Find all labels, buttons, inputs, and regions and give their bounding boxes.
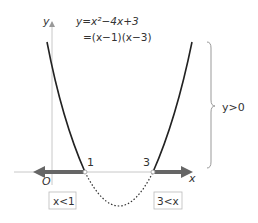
y-axis-label: y: [42, 15, 50, 28]
right-solution-arrow: [154, 166, 193, 178]
brace-label: y>0: [222, 101, 245, 114]
equation-line-1: y=x²−4x+3: [75, 15, 139, 27]
root-3-label: 3: [143, 156, 150, 169]
root-1-label: 1: [87, 156, 94, 169]
parabola-diagram: y x O 1 3 y=x²−4x+3 =(x−1)(x−3) x<1 3<x …: [0, 0, 258, 223]
left-solution-arrow: [33, 166, 84, 178]
equation-line-2: =(x−1)(x−3): [83, 31, 152, 43]
x-axis-label: x: [188, 172, 196, 185]
left-region-label: x<1: [53, 195, 75, 207]
brace-icon: [207, 42, 215, 168]
right-region-label: 3<x: [157, 195, 179, 207]
parabola-negative-part: [85, 172, 153, 206]
parabola-right-branch: [153, 42, 192, 172]
root-1-point: [83, 170, 87, 174]
root-3-point: [151, 170, 155, 174]
origin-label: O: [42, 175, 51, 188]
parabola-left-branch: [47, 42, 85, 172]
